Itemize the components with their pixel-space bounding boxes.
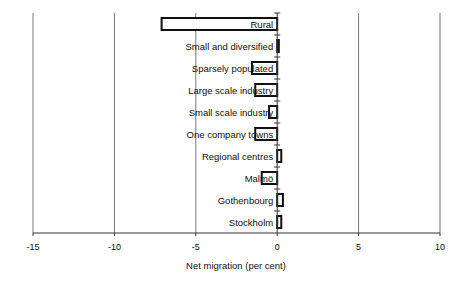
category-label: Stockholm	[229, 217, 273, 228]
category-label: Malmö	[245, 173, 274, 184]
category-label: Rural	[250, 19, 273, 30]
x-tick-label: 10	[435, 242, 445, 252]
category-label: Gothenbourg	[218, 195, 273, 206]
category-label: Sparsely populated	[192, 63, 273, 74]
bar	[277, 194, 283, 206]
x-axis-title: Net migration (per cent)	[186, 260, 286, 271]
category-label: Small scale industry	[189, 107, 274, 118]
x-tick-label: -10	[108, 242, 121, 252]
x-tick-label: 5	[356, 242, 361, 252]
category-label: One company towns	[187, 129, 274, 140]
x-tick-label: 0	[275, 242, 280, 252]
category-label: Regional centres	[202, 151, 274, 162]
bar	[277, 150, 281, 162]
category-label: Small and diversified	[186, 41, 274, 52]
x-tick-label: -5	[192, 242, 200, 252]
bar	[277, 216, 281, 228]
bar-chart: -15-10-50510 RuralSmall and diversifiedS…	[0, 0, 468, 287]
category-label: Large scale industry	[188, 85, 273, 96]
category-labels: RuralSmall and diversifiedSparsely popul…	[186, 19, 274, 228]
x-tick-label: -15	[26, 242, 39, 252]
